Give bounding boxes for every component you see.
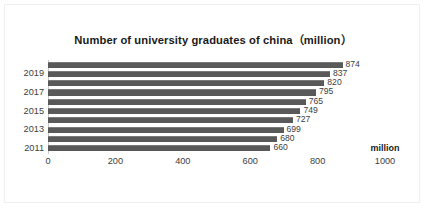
- y-axis-tick-labels: 20192017201520132011: [5, 60, 44, 153]
- y-tick-2013: 2013: [10, 124, 44, 135]
- bar-2012[interactable]: [48, 136, 277, 142]
- bar-row: 765: [48, 97, 385, 106]
- bar-2018[interactable]: [48, 80, 324, 86]
- bar-2015[interactable]: [48, 108, 300, 114]
- x-tick-400: 400: [153, 156, 213, 166]
- y-tick-2019: 2019: [10, 68, 44, 79]
- bar-2017[interactable]: [48, 89, 316, 95]
- chart-title: Number of university graduates of china（…: [5, 31, 420, 47]
- bar-row: 795: [48, 88, 385, 97]
- y-tick-2011: 2011: [10, 143, 44, 154]
- x-tick-1000: 1000: [355, 156, 415, 166]
- x-axis-tick-labels: 02004006008001000: [48, 156, 385, 172]
- bar-2013[interactable]: [48, 127, 284, 133]
- x-tick-0: 0: [18, 156, 78, 166]
- bar-2016[interactable]: [48, 99, 306, 105]
- x-tick-200: 200: [85, 156, 145, 166]
- bar-row: 680: [48, 134, 385, 143]
- chart-container: Number of university graduates of china（…: [4, 4, 420, 203]
- bar-row: 660: [48, 144, 385, 153]
- bar-2019[interactable]: [48, 71, 330, 77]
- plot-area: 874837820795765749727699680660: [48, 60, 385, 153]
- bar-2020[interactable]: [48, 62, 343, 68]
- bar-2014[interactable]: [48, 117, 293, 123]
- bar-2011[interactable]: [48, 145, 270, 151]
- y-tick-2017: 2017: [10, 87, 44, 98]
- bar-row: 749: [48, 107, 385, 116]
- bar-value-label: 874: [346, 59, 360, 70]
- bar-row: 699: [48, 125, 385, 134]
- bar-row: 727: [48, 116, 385, 125]
- x-tick-600: 600: [220, 156, 280, 166]
- x-tick-800: 800: [288, 156, 348, 166]
- x-axis-unit-label: million: [350, 143, 420, 153]
- bar-value-label: 660: [273, 142, 287, 153]
- y-tick-2015: 2015: [10, 106, 44, 117]
- bar-row: 820: [48, 79, 385, 88]
